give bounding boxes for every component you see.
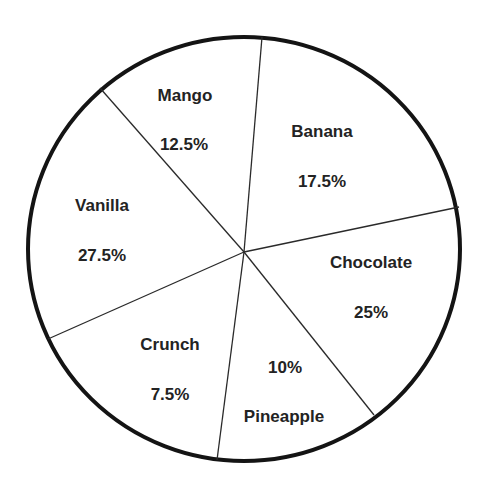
slice-label: Chocolate bbox=[330, 253, 412, 272]
slice-value: 12.5% bbox=[160, 135, 208, 154]
slice-value: 17.5% bbox=[298, 172, 346, 191]
slice-label: Banana bbox=[291, 122, 353, 141]
pie-chart: Mango 12.5% Banana 17.5% Chocolate 25% 1… bbox=[0, 0, 485, 500]
slice-value: 7.5% bbox=[151, 385, 190, 404]
slice-value: 27.5% bbox=[78, 246, 126, 265]
slice-label: Vanilla bbox=[75, 196, 129, 215]
slice-value: 10% bbox=[268, 358, 302, 377]
slice-value: 25% bbox=[354, 303, 388, 322]
slice-label: Mango bbox=[158, 86, 213, 105]
slice-label: Pineapple bbox=[244, 407, 324, 426]
slice-label: Crunch bbox=[140, 335, 200, 354]
